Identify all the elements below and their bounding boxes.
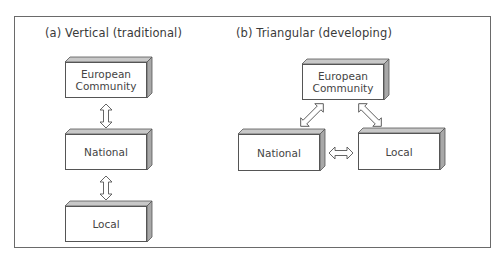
panel-a-node-local: Local	[65, 206, 147, 242]
panel-b-node-european-community: European Community	[302, 64, 384, 100]
panel-b-caption: (b) Triangular (developing)	[236, 26, 392, 40]
panel-a-caption: (a) Vertical (traditional)	[45, 26, 182, 40]
node-label-line: Community	[313, 82, 374, 94]
node-label-line: European	[313, 70, 374, 82]
panel-b-node-national: National	[238, 134, 320, 171]
panel-a-node-european-community: European Community	[65, 62, 147, 98]
double-arrow-diagonal-ec-local-icon	[353, 100, 387, 130]
double-arrow-vertical-icon	[99, 176, 113, 200]
double-arrow-horizontal-icon	[329, 146, 353, 160]
panel-b-node-local: Local	[358, 133, 440, 170]
node-label-line: Community	[76, 80, 137, 92]
node-label-line: European	[76, 68, 137, 80]
node-label-line: National	[84, 146, 128, 158]
node-label-line: Local	[385, 146, 412, 158]
panel-a-node-national: National	[65, 134, 147, 170]
double-arrow-diagonal-ec-national-icon	[295, 100, 329, 130]
node-label-line: National	[257, 147, 301, 159]
node-label-line: Local	[92, 218, 119, 230]
double-arrow-vertical-icon	[99, 104, 113, 128]
